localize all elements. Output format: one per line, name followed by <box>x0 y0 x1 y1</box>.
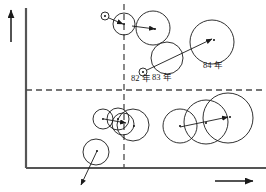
trajectory-lower-left <box>93 108 149 141</box>
bubble-center-dot <box>154 28 156 30</box>
label-82: 82 年 <box>131 71 151 83</box>
diagram-canvas <box>0 0 266 192</box>
bubble-circle <box>136 11 170 45</box>
bubble-center-dot <box>229 116 231 118</box>
label-83: 83 年 <box>152 70 172 82</box>
bubble-center-dot <box>104 15 106 17</box>
axes-group <box>11 8 266 181</box>
bubble-center-dot <box>102 118 104 120</box>
bubble-center-dot <box>96 150 98 152</box>
label-84: 84 年 <box>203 58 223 70</box>
trajectory-lower-right <box>163 93 253 144</box>
trajectory-arrow <box>132 26 155 29</box>
bubble-center-dot <box>123 23 125 25</box>
bubble-circle <box>117 109 149 141</box>
bubble-center-dot <box>179 125 181 127</box>
bubble-circle <box>112 113 134 135</box>
trajectory-upper-left <box>101 11 170 45</box>
trajectory-declining <box>81 139 109 185</box>
trajectory-arrow <box>109 18 123 24</box>
bubble-center-dot <box>213 39 215 41</box>
bubble-circle <box>83 139 109 165</box>
bubble-center-dot <box>133 125 135 127</box>
bubble-center-dot <box>205 122 207 124</box>
bubble-trajectory-diagram: 82 年 83 年 84 年 <box>0 0 266 192</box>
trajectories-group <box>81 11 253 185</box>
bubble-center-dot <box>117 118 119 120</box>
